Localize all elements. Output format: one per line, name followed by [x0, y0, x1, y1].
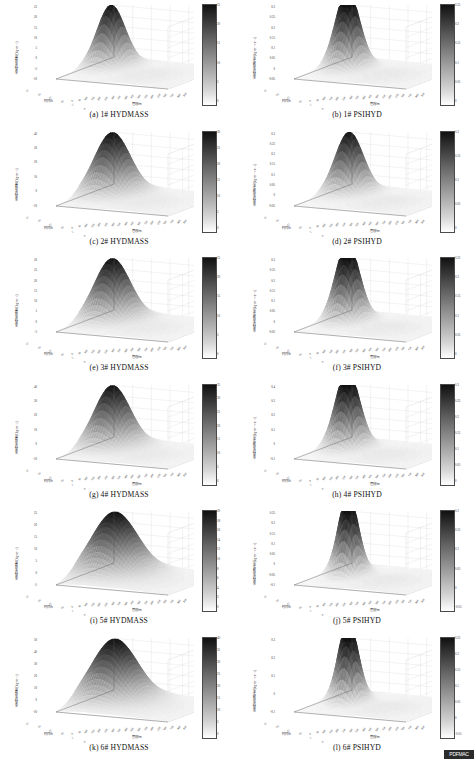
- colorbar-tick-label: 0: [455, 587, 457, 590]
- time-tick-label: 25: [263, 469, 267, 473]
- pipe-tick-label: 200: [98, 476, 103, 481]
- pipe-tick-label: 750: [409, 473, 414, 478]
- pipe-tick-label: 200: [98, 97, 103, 102]
- pipe-tick-label: 250: [105, 476, 110, 481]
- time-tick-label: 5: [71, 357, 73, 360]
- colorbar-tick-label: 10: [217, 62, 220, 65]
- colorbar-tick-label: 0.15: [455, 432, 460, 435]
- y-axis-ticks: 2520151050-5-10: [23, 6, 37, 84]
- pipe-tick-label: 850: [422, 599, 427, 604]
- pipe-tick-label: 800: [415, 473, 420, 478]
- colorbar-tick-label: 10: [217, 709, 220, 712]
- pipe-tick-label: 850: [422, 346, 427, 351]
- y-tick-label: -5: [35, 584, 38, 587]
- surface-3d-h: [276, 385, 432, 477]
- colorbar-tick-label: 0: [455, 100, 457, 103]
- time-axis-label: 时间/h: [282, 227, 291, 230]
- pipe-tick-label: 800: [415, 599, 420, 604]
- time-tick-label: 10: [298, 226, 302, 230]
- pipe-tick-label: 100: [85, 477, 90, 482]
- surface-panel-e: 水合物生成量/(kg·m⁻³)302520151050-525201510500…: [0, 253, 238, 380]
- time-tick-label: 20: [275, 472, 279, 476]
- y-tick-label: 0: [274, 321, 276, 324]
- pipe-tick-label: 700: [402, 473, 407, 478]
- surface-3d-i: [38, 511, 194, 603]
- time-tick-label: 20: [275, 93, 279, 97]
- time-tick-label: 5: [71, 230, 73, 233]
- pipe-tick-label: 800: [415, 220, 420, 225]
- time-axis-label: 时间/h: [44, 353, 53, 356]
- pipe-tick-label: 350: [118, 349, 123, 354]
- pipe-axis-label: 管段/m: [370, 103, 380, 106]
- y-tick-label: -10: [33, 78, 37, 81]
- pipe-tick-label: 400: [362, 222, 367, 227]
- pipe-tick-label: 550: [382, 348, 387, 353]
- y-tick-label: 40: [34, 386, 37, 389]
- pipe-axis-label: 管段/m: [132, 736, 142, 739]
- time-axis-label: 时间/h: [282, 480, 291, 483]
- pipe-tick-label: 50: [78, 731, 82, 735]
- time-axis-label: 时间/h: [44, 480, 53, 483]
- pipe-tick-label: 50: [316, 605, 320, 609]
- y-tick-label: 0.25: [270, 512, 275, 515]
- y-axis-ticks: 0.250.20.150.10.050-0.05-0.1: [261, 512, 275, 590]
- colorbar-tick-label: 25: [217, 257, 220, 260]
- time-tick-label: 20: [275, 219, 279, 223]
- pipe-tick-label: 250: [343, 729, 348, 734]
- surface-3d-j: [276, 511, 432, 603]
- pipe-tick-label: 400: [362, 602, 367, 607]
- pipe-tick-label: 800: [177, 346, 182, 351]
- y-tick-label: 40: [34, 651, 37, 654]
- pipe-tick-label: 600: [151, 601, 156, 606]
- time-tick-label: 10: [298, 353, 302, 357]
- colorbar-tick-label: 0.05: [455, 464, 460, 467]
- surface-panel-d: 水合物生成速率/(kg·m⁻³·s⁻¹)0.30.250.20.150.10.0…: [238, 127, 476, 254]
- time-tick-label: 20: [37, 472, 41, 476]
- y-tick-label: 0: [274, 68, 276, 71]
- y-tick-label: 20: [34, 161, 37, 164]
- y-tick-label: 0.15: [270, 37, 275, 40]
- colorbar-tick-label: 2: [217, 596, 219, 599]
- colorbar-gradient: [440, 384, 455, 486]
- y-tick-label: 10: [34, 429, 37, 432]
- pipe-tick-label: 250: [343, 223, 348, 228]
- panel-row: 水合物生成量/(kg·m⁻³)2520151050-52520151050050…: [0, 506, 476, 633]
- plot-area-d: 水合物生成速率/(kg·m⁻³·s⁻¹)0.30.250.20.150.10.0…: [252, 129, 437, 237]
- pipe-tick-label: 150: [91, 97, 96, 102]
- colorbar-gradient: [440, 637, 455, 739]
- time-tick-label: 10: [60, 732, 64, 736]
- panel-caption-g: (g) 4# HYDMASS: [0, 490, 238, 500]
- pipe-tick-label: 500: [376, 222, 381, 227]
- pipe-tick-label: 350: [118, 222, 123, 227]
- y-tick-label: -10: [33, 205, 37, 208]
- pipe-tick-label: 350: [356, 602, 361, 607]
- time-tick-label: 5: [309, 483, 311, 486]
- y-tick-label: 0: [274, 194, 276, 197]
- y-tick-label: 0.1: [271, 47, 275, 50]
- pipe-tick-label: 250: [105, 602, 110, 607]
- colorbar-tick-label: 5: [217, 334, 219, 337]
- pipe-tick-label: 50: [78, 605, 82, 609]
- colorbar-tick-label: 0.05: [455, 568, 460, 571]
- y-tick-label: 25: [34, 269, 37, 272]
- y-tick-label: 0.05: [270, 310, 275, 313]
- pipe-tick-label: 50: [78, 225, 82, 229]
- colorbar-ticks: 2520151050: [217, 253, 233, 361]
- time-tick-label: 5: [309, 610, 311, 613]
- pipe-tick-label: 100: [323, 477, 328, 482]
- pipe-tick-label: 500: [138, 348, 143, 353]
- pipe-tick-label: 450: [369, 475, 374, 480]
- y-tick-label: -5: [35, 68, 38, 71]
- y-tick-label: -10: [33, 711, 37, 714]
- y-tick-label: 0.25: [270, 143, 275, 146]
- colorbar-gradient: [202, 384, 217, 486]
- time-tick-label: 10: [298, 100, 302, 104]
- pipe-tick-label: 650: [395, 221, 400, 226]
- y-tick-label: 0.25: [270, 269, 275, 272]
- y-axis-label: 水合物生成速率/(kg·m⁻³·s⁻¹): [251, 398, 260, 478]
- y-axis-label: 水合物生成速率/(kg·m⁻³·s⁻¹): [251, 18, 260, 98]
- y-tick-label: -0.05: [269, 331, 275, 334]
- pipe-tick-label: 150: [329, 224, 334, 229]
- pipe-tick-label: 500: [138, 601, 143, 606]
- colorbar-tick-label: 0: [217, 100, 219, 103]
